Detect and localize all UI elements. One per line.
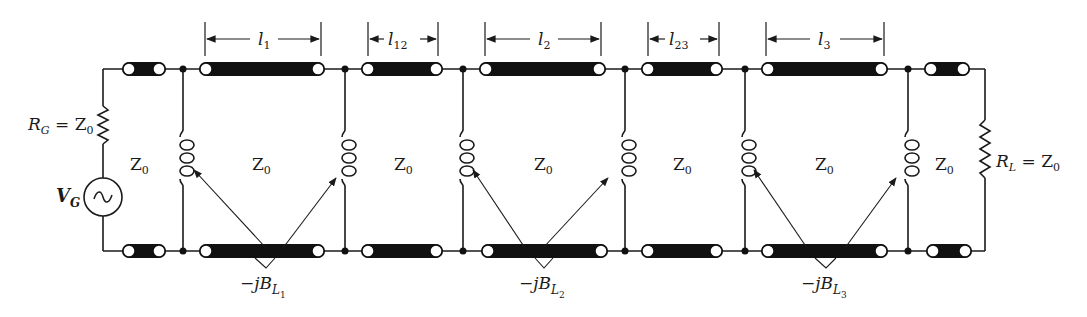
label-l23: l23 [669, 29, 688, 52]
label-z0: Z0 [815, 154, 834, 177]
inductor-2-a [460, 130, 474, 186]
line-short-right-top [924, 62, 970, 76]
inductor-2-b [622, 130, 636, 186]
inductor-3-b [905, 130, 919, 186]
line-short-left-bottom [122, 244, 166, 258]
line-l12-top [361, 62, 443, 76]
line-l23-top [641, 62, 723, 76]
inductor-icons [180, 130, 919, 186]
source-resistor [98, 106, 108, 144]
line-short-right-bottom [926, 244, 972, 258]
line-l3-bottom [761, 244, 888, 258]
label-l2: l2 [538, 29, 550, 52]
label-susceptance-2: −jBL2 [519, 273, 565, 300]
label-susceptance-3: −jBL3 [801, 273, 847, 300]
label-l12: l12 [388, 29, 407, 52]
load-resistor [980, 120, 990, 178]
line-l1-top [199, 62, 325, 76]
inductor-3-a [742, 130, 756, 186]
label-z0: Z0 [935, 154, 954, 177]
label-load-resistance: RL = Z0 [995, 151, 1060, 174]
line-l3-top [761, 62, 888, 76]
inductor-1-a [180, 130, 194, 186]
line-l1-bottom [199, 244, 325, 258]
label-z0: Z0 [394, 154, 413, 177]
line-l12-bottom [361, 244, 443, 258]
label-z0: Z0 [673, 154, 692, 177]
label-source-resistance: RG = Z0 [27, 114, 93, 137]
label-z0: Z0 [130, 154, 149, 177]
voltage-source [84, 178, 122, 216]
line-l2-top [479, 62, 606, 76]
label-susceptance-1: −jBL1 [240, 273, 286, 300]
label-l1: l1 [258, 29, 270, 52]
label-z0: Z0 [534, 154, 553, 177]
label-l3: l3 [818, 29, 830, 52]
label-source-voltage: VG [56, 185, 80, 210]
inductor-1-b [342, 130, 356, 186]
circuit-diagram: l1 l12 l2 l23 l3 RG = Z0 VG RL = Z0 Z0 Z… [0, 0, 1087, 317]
label-z0: Z0 [252, 154, 271, 177]
transmission-lines [122, 62, 972, 258]
line-short-left-top [122, 62, 166, 76]
line-l23-bottom [641, 244, 723, 258]
